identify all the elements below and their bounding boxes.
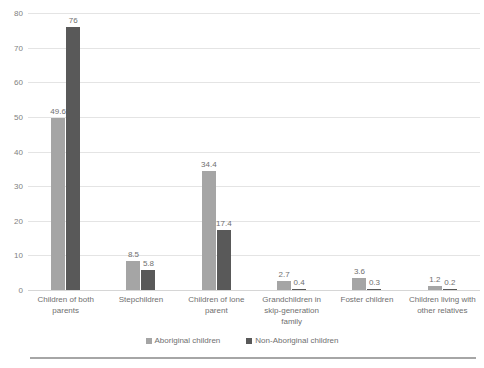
bar-column: 2.7: [277, 13, 291, 290]
bar-column: 0.2: [443, 13, 457, 290]
bar: [277, 281, 291, 290]
bar-value-label: 34.4: [201, 160, 217, 169]
bar-group: 1.20.2: [405, 13, 480, 290]
legend-swatch-icon: [246, 338, 252, 344]
bar: [126, 261, 140, 290]
bar: [51, 118, 65, 290]
x-axis-category-label: Children of lone parent: [179, 294, 254, 327]
x-axis-category-labels: Children of both parentsStepchildrenChil…: [28, 294, 480, 327]
bar: [292, 289, 306, 291]
bar-column: 0.3: [367, 13, 381, 290]
x-axis-category-label: Stepchildren: [103, 294, 178, 327]
bottom-divider: [30, 357, 476, 359]
bar-column: 34.4: [202, 13, 216, 290]
bar-group: 2.70.4: [254, 13, 329, 290]
bar-column: 17.4: [217, 13, 231, 290]
bar-column: 5.8: [141, 13, 155, 290]
bar-group: 8.55.8: [103, 13, 178, 290]
bar-groups: 49.6768.55.834.417.42.70.43.60.31.20.2: [28, 13, 480, 290]
y-axis-tick-label: 70: [14, 43, 23, 52]
y-axis-tick-label: 20: [14, 216, 23, 225]
bar-column: 3.6: [352, 13, 366, 290]
bar-value-label: 8.5: [128, 250, 139, 259]
bar-group: 3.60.3: [329, 13, 404, 290]
y-axis-tick-label: 30: [14, 182, 23, 191]
bar-column: 76: [66, 13, 80, 290]
bar: [217, 230, 231, 290]
bar: [428, 286, 442, 290]
legend-item[interactable]: Non-Aboriginal children: [246, 336, 338, 345]
bar: [141, 270, 155, 290]
legend-item[interactable]: Aboriginal children: [146, 336, 221, 345]
gridline: [28, 290, 480, 291]
bar-column: 1.2: [428, 13, 442, 290]
bar-column: 49.6: [51, 13, 65, 290]
legend-label: Aboriginal children: [155, 336, 221, 345]
chart-legend: Aboriginal childrenNon-Aboriginal childr…: [0, 336, 484, 345]
bar-value-label: 5.8: [143, 259, 154, 268]
bar-value-label: 0.3: [369, 278, 380, 287]
bar-value-label: 0.2: [444, 278, 455, 287]
bar-value-label: 0.4: [294, 278, 305, 287]
x-axis-category-label: Grandchildren in skip-generation family: [254, 294, 329, 327]
bar-chart: 01020304050607080 49.6768.55.834.417.42.…: [0, 0, 484, 368]
bar-value-label: 2.7: [279, 270, 290, 279]
bar-column: 0.4: [292, 13, 306, 290]
bar-group: 49.676: [28, 13, 103, 290]
bar-value-label: 17.4: [216, 219, 232, 228]
bar-value-label: 76: [69, 16, 78, 25]
y-axis-tick-label: 0: [19, 286, 23, 295]
x-axis-category-label: Foster children: [329, 294, 404, 327]
bar-value-label: 49.6: [50, 107, 66, 116]
bar: [202, 171, 216, 290]
y-axis-tick-label: 80: [14, 9, 23, 18]
bar: [443, 289, 457, 291]
bar-group: 34.417.4: [179, 13, 254, 290]
legend-swatch-icon: [146, 338, 152, 344]
bar: [352, 278, 366, 290]
y-axis: 01020304050607080: [0, 0, 28, 290]
bar-value-label: 1.2: [429, 275, 440, 284]
y-axis-tick-label: 10: [14, 251, 23, 260]
bar-value-label: 3.6: [354, 267, 365, 276]
bar: [367, 289, 381, 291]
bar-column: 8.5: [126, 13, 140, 290]
y-axis-tick-label: 40: [14, 147, 23, 156]
legend-label: Non-Aboriginal children: [255, 336, 338, 345]
x-axis-category-label: Children of both parents: [28, 294, 103, 327]
y-axis-tick-label: 50: [14, 112, 23, 121]
bar: [66, 27, 80, 290]
y-axis-tick-label: 60: [14, 78, 23, 87]
x-axis-category-label: Children living with other relatives: [405, 294, 480, 327]
